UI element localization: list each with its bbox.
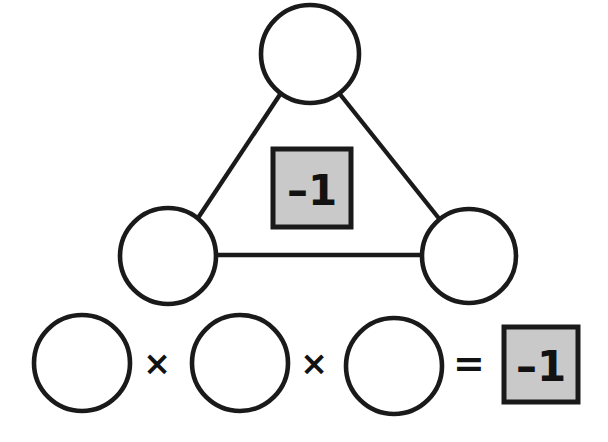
equation-factor-1[interactable] bbox=[34, 315, 130, 411]
equation-result-box-label: –1 bbox=[516, 342, 566, 391]
triangle-node-bottom-right[interactable] bbox=[422, 209, 516, 303]
puzzle-figure: –1 × × = –1 bbox=[0, 0, 608, 442]
edge-top-to-bottom-left bbox=[196, 93, 281, 221]
triangle-center-box-label: –1 bbox=[287, 166, 337, 215]
multiply-icon-1: × bbox=[143, 344, 171, 383]
multiply-icon-2: × bbox=[300, 344, 328, 383]
equation-factor-2[interactable] bbox=[192, 315, 288, 411]
triangle-node-bottom-left[interactable] bbox=[120, 208, 216, 304]
puzzle-canvas: –1 × × = –1 bbox=[0, 0, 608, 442]
equals-icon: = bbox=[453, 341, 485, 385]
triangle-center-box[interactable]: –1 bbox=[273, 149, 351, 227]
equation-result-box[interactable]: –1 bbox=[504, 327, 578, 402]
equation-factor-3[interactable] bbox=[346, 318, 442, 414]
triangle-node-top[interactable] bbox=[261, 5, 359, 103]
equation-row: × × = –1 bbox=[34, 315, 578, 414]
edge-top-to-bottom-right bbox=[339, 93, 441, 221]
